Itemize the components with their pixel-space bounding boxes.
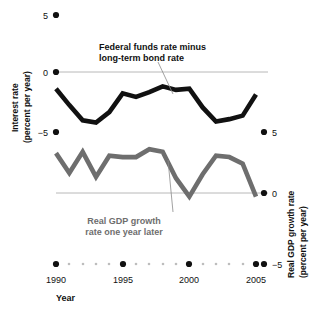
x-tick-label-2005: 2005 (246, 275, 266, 285)
x-tick-dot-1992 (82, 263, 85, 266)
x-tick-dot-2002 (215, 263, 218, 266)
right-tick-dot-5 (261, 129, 267, 135)
x-tick-dot-1991 (68, 263, 71, 266)
left-tick-label-0: 0 (43, 68, 48, 78)
right-tick-dot-0 (261, 190, 267, 196)
x-tick-dot-2003 (228, 263, 231, 266)
x-tick-dot-2000 (186, 261, 192, 267)
right-tick-label-0: 0 (272, 189, 277, 199)
x-tick-label-2000: 2000 (179, 275, 199, 285)
x-tick-dot-1990 (53, 261, 59, 267)
right-tick-label-neg5: −5 (272, 260, 282, 270)
right-tick-label-5: 5 (272, 128, 277, 138)
annotation-gray-series: Real GDP growth rate one year later (85, 216, 163, 237)
x-tick-dot-1999 (175, 263, 178, 266)
annotation-gray-line2: rate one year later (85, 227, 163, 237)
x-tick-label-1990: 1990 (46, 275, 66, 285)
annotation-gray-line1: Real GDP growth (87, 216, 160, 226)
x-tick-dot-2005 (253, 261, 259, 267)
left-axis-title-line2: (percent per year) (22, 71, 32, 143)
x-tick-dot-1998 (162, 263, 165, 266)
left-tick-dot-neg5 (53, 129, 59, 135)
x-tick-dot-1994 (108, 263, 111, 266)
left-tick-label-5: 5 (43, 11, 48, 21)
x-tick-dot-1993 (95, 263, 98, 266)
annotation-black-line1: Federal funds rate minus (99, 42, 206, 52)
x-tick-dot-2001 (202, 263, 205, 266)
annotation-black-line2: long-term bond rate (99, 53, 184, 63)
x-tick-dot-1995 (120, 261, 126, 267)
right-axis-title-line1: Real GDP growth rate (286, 191, 296, 278)
x-axis-title: Year (56, 293, 76, 303)
right-axis-title-line2: (percent per year) (298, 206, 308, 278)
left-tick-dot-5 (53, 12, 59, 18)
left-axis-title-line1: Interest rate (10, 83, 20, 132)
x-tick-dot-1997 (148, 263, 151, 266)
right-tick-dot-neg5 (261, 261, 267, 267)
x-tick-dot-2004 (242, 263, 245, 266)
x-tick-dot-1996 (135, 263, 138, 266)
left-tick-label-neg5: −5 (38, 128, 48, 138)
left-tick-dot-0 (53, 69, 59, 75)
chart-figure: 5 0 −5 5 0 −5 Interest rate (percent per… (0, 0, 320, 310)
x-tick-label-1995: 1995 (113, 275, 133, 285)
